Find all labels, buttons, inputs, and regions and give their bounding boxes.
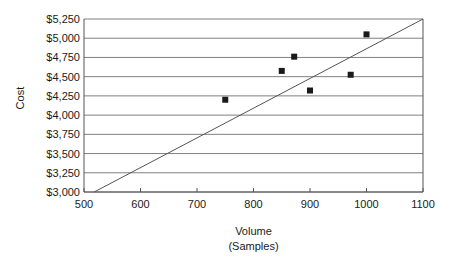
grid-lines: [84, 19, 423, 192]
x-axis-title-line-2: (Samples): [84, 239, 423, 254]
x-axis-title-line-1: Volume: [84, 224, 423, 239]
data-point-markers: [222, 31, 369, 102]
data-point-marker: [348, 72, 354, 78]
data-point-marker: [222, 97, 228, 103]
cost-volume-scatter-chart: Cost $3,000$3,250$3,500$3,750$4,000$4,25…: [0, 0, 451, 267]
data-point-marker: [307, 88, 313, 94]
data-point-marker: [291, 54, 297, 60]
axis-ticks: [84, 188, 423, 192]
x-axis-title: Volume (Samples): [84, 224, 423, 254]
data-point-marker: [364, 31, 370, 37]
trend-line: [94, 19, 423, 192]
data-point-marker: [279, 68, 285, 74]
